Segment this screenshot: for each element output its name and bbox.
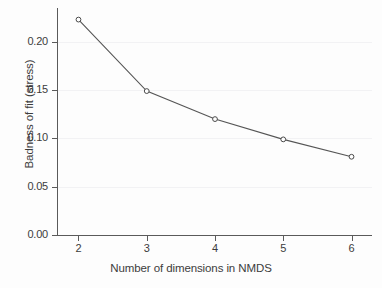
series-markers	[76, 17, 354, 159]
x-axis-label: Number of dimensions in NMDS	[0, 262, 382, 274]
data-point-5	[281, 137, 286, 142]
chart-figure: 0.000.050.100.150.20 23456 Badness of fi…	[0, 0, 382, 288]
data-point-6	[349, 154, 354, 159]
y-axis-label: Badness of fit (stress)	[23, 29, 35, 199]
data-point-3	[144, 89, 149, 94]
data-point-4	[213, 117, 218, 122]
data-point-2	[76, 17, 81, 22]
data-series-layer	[0, 0, 382, 288]
series-line	[78, 20, 351, 157]
